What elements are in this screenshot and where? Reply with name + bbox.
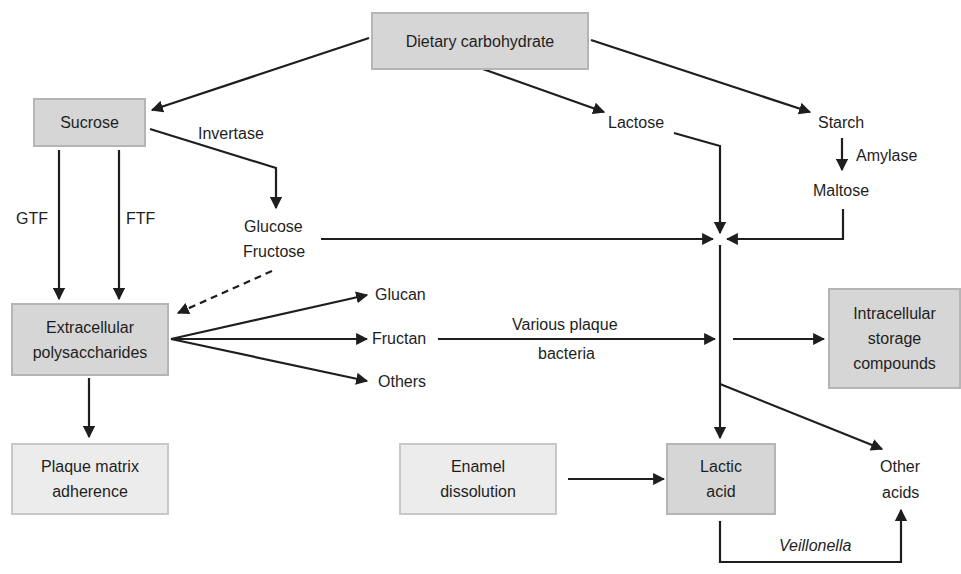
intracellular-storage-box: Intracellular storage compounds: [828, 288, 961, 389]
other-acids-label-line1: Other: [880, 454, 920, 479]
arrow-to-other-acids: [720, 384, 882, 449]
arrow-maltose-to-junction: [727, 209, 843, 239]
others-label: Others: [378, 369, 426, 394]
intra-label-line1: Intracellular: [853, 301, 936, 326]
arrow-dashed-to-eps: [178, 271, 272, 313]
lactic-label-line2: acid: [706, 479, 735, 504]
arrow-eps-to-glucan: [171, 295, 367, 339]
arrow-eps-to-others: [171, 339, 367, 381]
lactose-label: Lactose: [608, 110, 664, 135]
dietary-carbohydrate-box: Dietary carbohydrate: [371, 12, 589, 70]
maltose-label: Maltose: [813, 178, 869, 203]
arrow-dietary-to-starch: [591, 40, 810, 112]
veillonella-label: Veillonella: [779, 533, 851, 558]
fructan-label: Fructan: [372, 326, 426, 351]
fructose-label: Fructose: [243, 239, 305, 264]
extracellular-polysaccharides-box: Extracellular polysaccharides: [11, 303, 169, 376]
enamel-label-line2: dissolution: [440, 479, 516, 504]
gtf-label: GTF: [16, 206, 48, 231]
arrow-dietary-to-lactose: [480, 68, 604, 112]
sucrose-box: Sucrose: [33, 98, 146, 147]
amylase-label: Amylase: [856, 143, 917, 168]
invertase-label: Invertase: [198, 121, 264, 146]
enamel-label-line1: Enamel: [451, 454, 505, 479]
ftf-label: FTF: [126, 206, 155, 231]
arrow-lactose-to-junction: [674, 133, 720, 233]
eps-label-line1: Extracellular: [46, 315, 134, 340]
glucose-label: Glucose: [244, 214, 303, 239]
arrow-dietary-to-sucrose: [152, 38, 369, 110]
eps-label-line2: polysaccharides: [33, 340, 148, 365]
bacteria-label: bacteria: [538, 341, 595, 366]
lactic-label-line1: Lactic: [700, 454, 742, 479]
various-plaque-label: Various plaque: [512, 312, 618, 337]
other-acids-label-line2: acids: [882, 480, 919, 505]
intra-label-line3: compounds: [853, 351, 936, 376]
intra-label-line2: storage: [868, 326, 921, 351]
sucrose-label: Sucrose: [60, 110, 119, 135]
lactic-acid-box: Lactic acid: [666, 443, 776, 515]
plaque-label-line1: Plaque matrix: [41, 454, 139, 479]
starch-label: Starch: [818, 110, 864, 135]
enamel-dissolution-box: Enamel dissolution: [399, 443, 557, 515]
dietary-carbohydrate-label: Dietary carbohydrate: [406, 29, 555, 54]
glucan-label: Glucan: [375, 282, 426, 307]
plaque-matrix-adherence-box: Plaque matrix adherence: [11, 443, 169, 515]
plaque-label-line2: adherence: [52, 479, 128, 504]
